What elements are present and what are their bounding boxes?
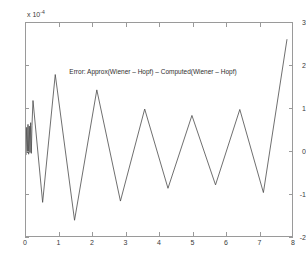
error-series-line	[26, 39, 287, 220]
x-tick-mark	[126, 232, 127, 237]
x-tick-mark	[126, 22, 127, 27]
y-tick-mark	[25, 108, 29, 109]
x-tick-label: 1	[57, 239, 61, 246]
x-tick-mark	[226, 22, 227, 27]
x-tick-label: 2	[90, 239, 94, 246]
x-tick-mark	[159, 232, 160, 237]
figure-canvas: x 10-4 3210-1-2 012345678 Error: Approx(…	[0, 0, 306, 263]
x-tick-mark	[59, 22, 60, 27]
plot-annotation-text: Error: Approx(Wiener – Hopf) – Computed(…	[0, 68, 306, 75]
data-line-svg	[26, 23, 292, 236]
y-tick-label: 3	[286, 19, 306, 26]
x-tick-label: 5	[191, 239, 195, 246]
y-axis-exponent-label: x 10-4	[27, 9, 45, 18]
x-tick-mark	[159, 22, 160, 27]
exponent-power: -4	[40, 9, 44, 15]
x-tick-label: 4	[157, 239, 161, 246]
x-tick-mark	[260, 22, 261, 27]
y-tick-mark	[289, 151, 293, 152]
x-tick-mark	[92, 22, 93, 27]
x-tick-mark	[226, 232, 227, 237]
y-tick-mark	[25, 65, 29, 66]
x-tick-mark	[193, 22, 194, 27]
x-tick-label: 6	[224, 239, 228, 246]
x-tick-label: 3	[124, 239, 128, 246]
plot-area	[25, 22, 293, 237]
y-tick-mark	[289, 194, 293, 195]
x-tick-label: 7	[258, 239, 262, 246]
x-tick-mark	[92, 232, 93, 237]
y-tick-mark	[25, 151, 29, 152]
x-tick-mark	[59, 232, 60, 237]
x-tick-mark	[260, 232, 261, 237]
y-tick-mark	[289, 237, 293, 238]
y-tick-mark	[289, 65, 293, 66]
y-tick-mark	[289, 108, 293, 109]
x-tick-label: 8	[291, 239, 295, 246]
y-tick-mark	[25, 237, 29, 238]
y-tick-mark	[25, 194, 29, 195]
x-tick-mark	[193, 232, 194, 237]
exponent-prefix: x 10	[27, 11, 40, 18]
x-tick-label: 0	[23, 239, 27, 246]
